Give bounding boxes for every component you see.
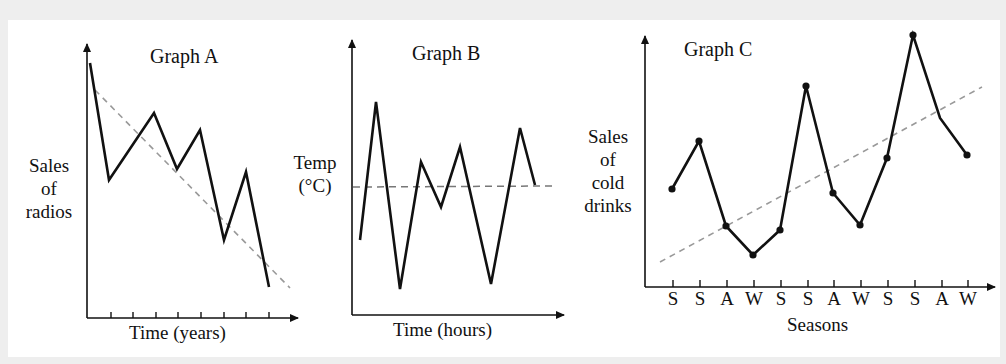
graph-a-trend-line bbox=[95, 90, 290, 288]
season-label: W bbox=[958, 288, 978, 310]
graph-a-data-line bbox=[90, 63, 269, 287]
season-label: A bbox=[824, 288, 844, 310]
graph-c bbox=[645, 31, 995, 287]
graph-a-ylabel-line2: of bbox=[24, 178, 74, 200]
season-label: A bbox=[717, 288, 737, 310]
season-label: W bbox=[851, 288, 871, 310]
graph-a-ticks bbox=[111, 312, 269, 318]
graph-c-ylabel-line3: cold bbox=[578, 172, 638, 194]
graph-c-ylabel-line4: drinks bbox=[573, 195, 643, 217]
graph-a-ylabel-line3: radios bbox=[19, 201, 79, 223]
graph-b-mean-line bbox=[353, 186, 552, 187]
season-label: S bbox=[663, 288, 683, 310]
graph-c-ticks bbox=[673, 280, 968, 287]
graph-c-ylabel-line1: Sales bbox=[578, 126, 638, 148]
season-label: A bbox=[932, 288, 952, 310]
graph-b-title: Graph B bbox=[412, 42, 480, 64]
graph-b-xlabel: Time (hours) bbox=[393, 319, 492, 341]
graph-a-title: Graph A bbox=[150, 45, 218, 67]
graph-a-xlabel: Time (years) bbox=[129, 322, 226, 344]
graph-c-ylabel-line2: of bbox=[578, 149, 638, 171]
graph-b-ylabel-line1: Temp bbox=[285, 152, 345, 174]
season-label: W bbox=[744, 288, 764, 310]
graph-c-xlabel: Seasons bbox=[787, 314, 848, 336]
graph-c-title: Graph C bbox=[684, 38, 752, 60]
graph-c-data-line bbox=[672, 35, 967, 255]
season-label: S bbox=[798, 288, 818, 310]
season-label: S bbox=[878, 288, 898, 310]
season-label: S bbox=[771, 288, 791, 310]
graph-c-data-points bbox=[668, 31, 970, 258]
graph-b-ylabel-line2: (°C) bbox=[285, 175, 345, 197]
graph-b bbox=[352, 40, 564, 315]
season-label: S bbox=[905, 288, 925, 310]
graph-a bbox=[87, 44, 298, 318]
graph-a-ylabel-line1: Sales bbox=[24, 155, 74, 177]
graph-b-data-line bbox=[360, 102, 535, 289]
season-label: S bbox=[690, 288, 710, 310]
